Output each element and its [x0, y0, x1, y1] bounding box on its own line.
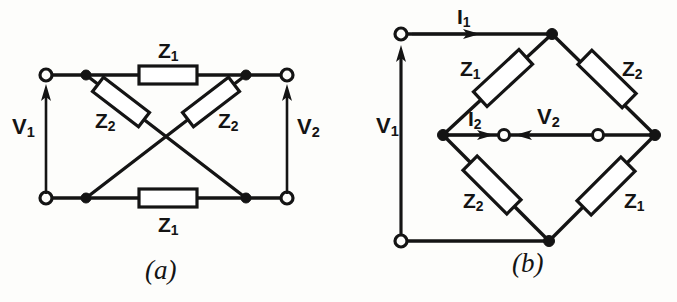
- node-dot-b-top: [547, 29, 558, 40]
- label-z1-top: Z1: [158, 40, 178, 64]
- node-dot-b-right: [650, 130, 661, 141]
- resistor-z1-top: [139, 66, 197, 84]
- node-dot-bottom-left: [81, 193, 91, 203]
- label-v2-b-subscript: 2: [552, 114, 560, 130]
- resistor-b-z1-upper-left: [473, 50, 532, 107]
- label-i2-subscript: 2: [474, 116, 481, 132]
- label-v2-a: V2: [297, 116, 319, 140]
- terminal-b-input-bottom: [395, 235, 407, 247]
- node-dot-b-bottom: [544, 236, 555, 247]
- label-z1-lower-right-symbol: Z: [624, 189, 637, 212]
- label-z1-top-symbol: Z: [158, 39, 171, 62]
- label-z2-upper-right-symbol: Z: [622, 57, 635, 80]
- resistor-z1-bottom: [139, 189, 197, 207]
- panel-b-graphics: [395, 28, 661, 247]
- label-z1-top-subscript: 1: [171, 48, 178, 64]
- label-z2-upper-right: Z2: [622, 58, 642, 82]
- label-z1-bottom-subscript: 1: [171, 222, 178, 238]
- node-dot-bottom-right: [241, 193, 251, 203]
- label-v1-a: V1: [12, 116, 34, 140]
- label-z1-upper-left-subscript: 1: [473, 66, 480, 82]
- node-dot-b-left: [438, 130, 449, 141]
- label-v2-a-subscript: 2: [312, 124, 320, 140]
- circuit-figure: Z1 Z2 Z2 Z1 V1 V2 (a) I1 V1 I2 V2 Z1 Z2 …: [0, 0, 677, 302]
- caption-panel-b: (b): [512, 248, 543, 279]
- terminal-b-output-left: [499, 130, 510, 141]
- label-z2-lower-left: Z2: [463, 190, 483, 214]
- label-z1-lower-right: Z1: [624, 190, 644, 214]
- label-i1: I1: [457, 6, 470, 30]
- label-z1-lower-right-subscript: 1: [637, 198, 644, 214]
- label-v1-b-subscript: 1: [391, 123, 399, 139]
- label-v2-b-symbol: V: [537, 104, 552, 129]
- terminal-b-input-top: [395, 28, 407, 40]
- label-i1-subscript: 1: [463, 14, 470, 30]
- label-i2: I2: [468, 108, 481, 132]
- label-z2-right-subscript: 2: [231, 118, 238, 134]
- node-dot-top-right: [241, 70, 251, 80]
- label-z2-right-symbol: Z: [218, 109, 231, 132]
- label-z2-left-symbol: Z: [95, 109, 108, 132]
- label-z2-lower-left-subscript: 2: [476, 198, 483, 214]
- label-v2-a-symbol: V: [297, 114, 312, 139]
- terminal-input-top: [40, 69, 52, 81]
- terminal-output-top: [281, 69, 293, 81]
- circuit-canvas: [0, 0, 677, 302]
- terminal-b-output-right: [593, 130, 604, 141]
- label-v2-b: V2: [537, 106, 559, 130]
- label-z1-upper-left-symbol: Z: [460, 57, 473, 80]
- label-z2-upper-right-subscript: 2: [635, 66, 642, 82]
- label-v1-a-subscript: 1: [27, 124, 35, 140]
- label-v1-b: V1: [376, 115, 398, 139]
- label-z2-left-subscript: 2: [108, 118, 115, 134]
- label-z2-lower-left-symbol: Z: [463, 189, 476, 212]
- caption-panel-a: (a): [145, 255, 176, 286]
- label-z1-bottom: Z1: [158, 214, 178, 238]
- label-v1-b-symbol: V: [376, 113, 391, 138]
- label-z1-bottom-symbol: Z: [158, 213, 171, 236]
- label-z1-upper-left: Z1: [460, 58, 480, 82]
- label-z2-left: Z2: [95, 110, 115, 134]
- label-v1-a-symbol: V: [12, 114, 27, 139]
- panel-a-graphics: [40, 66, 293, 207]
- label-z2-right: Z2: [218, 110, 238, 134]
- node-dot-top-left: [81, 70, 91, 80]
